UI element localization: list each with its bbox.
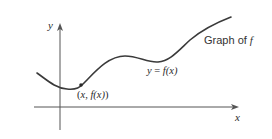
curve-label-function-name: f xyxy=(250,34,253,46)
point-label-fx: f(x) xyxy=(90,89,105,100)
curve-label: Graph of f xyxy=(204,35,253,46)
curve-label-prefix: Graph of xyxy=(204,34,250,46)
equation-equals: = xyxy=(152,65,163,76)
point-label: (x, f(x)) xyxy=(77,90,109,101)
equation-rhs: f(x) xyxy=(163,65,178,76)
point-label-close-paren: ) xyxy=(105,89,109,100)
y-axis-label: y xyxy=(48,20,53,31)
x-axis-label: x xyxy=(235,112,240,123)
function-curve xyxy=(37,17,231,89)
graph-canvas xyxy=(0,0,272,139)
equation-label: y = f(x) xyxy=(147,66,177,77)
function-graph-figure: y x Graph of f y = f(x) (x, f(x)) xyxy=(0,0,272,139)
point-marker xyxy=(79,83,83,87)
